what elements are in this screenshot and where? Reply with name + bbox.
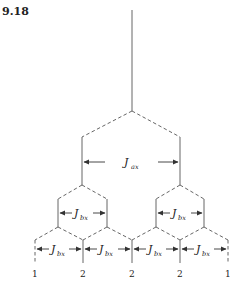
ratio-1: 1 [32, 269, 38, 279]
jbx-label-main: J [49, 243, 56, 256]
jbx-label-sub: bx [154, 250, 162, 258]
splitting-tree-diagram: J ax J bx J bx [0, 0, 240, 296]
jbx-label-main: J [170, 207, 177, 220]
jbx-arrow-bottom-1: J bx [37, 243, 81, 258]
ratio-5: 1 [225, 269, 231, 279]
intensity-ratios: 1 2 2 2 1 [32, 269, 231, 279]
jbx-label-sub: bx [178, 214, 186, 222]
jbx-label-sub: bx [80, 214, 88, 222]
jbx-label-sub: bx [202, 250, 210, 258]
level1-split [82, 111, 180, 185]
jbx-label-sub: bx [105, 250, 113, 258]
ratio-3: 2 [129, 269, 135, 279]
jbx-label-main: J [194, 243, 201, 256]
jax-label-main: J [122, 156, 129, 169]
ratio-4: 2 [177, 269, 183, 279]
jbx-label-main: J [146, 243, 153, 256]
jbx-arrow-bottom-4: J bx [182, 243, 226, 258]
jbx-label-sub: bx [57, 250, 65, 258]
jax-arrow: J ax [84, 156, 178, 171]
jbx-arrow-left-hex: J bx [60, 207, 105, 222]
jbx-arrow-bottom-2: J bx [85, 243, 130, 258]
level3-split [35, 227, 228, 240]
jax-label-sub: ax [131, 163, 139, 171]
jbx-arrow-bottom-3: J bx [134, 243, 178, 258]
ratio-2: 2 [80, 269, 86, 279]
jbx-label-main: J [97, 243, 104, 256]
jbx-arrow-right-hex: J bx [158, 207, 202, 222]
jbx-label-main: J [72, 207, 79, 220]
